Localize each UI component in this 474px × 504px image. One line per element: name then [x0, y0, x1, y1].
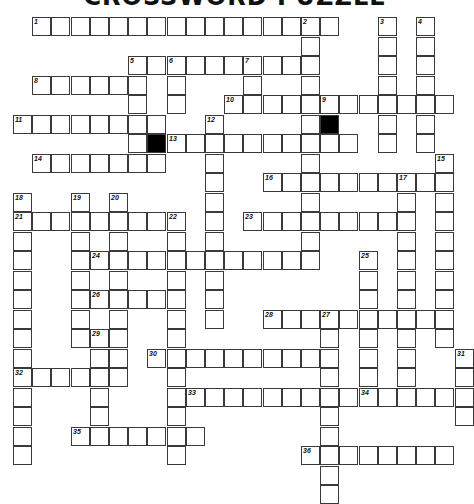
grid-cell[interactable]	[301, 56, 320, 75]
grid-cell[interactable]	[90, 407, 109, 426]
grid-cell[interactable]	[167, 349, 186, 368]
grid-cell[interactable]	[378, 446, 397, 465]
grid-cell[interactable]	[435, 95, 454, 114]
grid-cell[interactable]	[359, 290, 378, 309]
grid-cell[interactable]: 21	[13, 212, 32, 231]
grid-cell[interactable]	[320, 485, 339, 504]
grid-cell[interactable]	[243, 134, 262, 153]
grid-cell[interactable]	[301, 310, 320, 329]
grid-cell[interactable]	[339, 95, 358, 114]
grid-cell[interactable]	[90, 154, 109, 173]
grid-cell[interactable]	[128, 95, 147, 114]
grid-cell[interactable]	[167, 271, 186, 290]
grid-cell[interactable]: 18	[13, 193, 32, 212]
grid-cell[interactable]	[416, 310, 435, 329]
grid-cell[interactable]	[90, 388, 109, 407]
grid-cell[interactable]	[435, 388, 454, 407]
grid-cell[interactable]	[205, 56, 224, 75]
grid-cell[interactable]	[147, 290, 166, 309]
grid-cell[interactable]: 25	[359, 251, 378, 270]
grid-cell[interactable]	[416, 37, 435, 56]
grid-cell[interactable]	[263, 134, 282, 153]
grid-cell[interactable]: 22	[167, 212, 186, 231]
grid-cell[interactable]	[339, 310, 358, 329]
grid-cell[interactable]	[109, 310, 128, 329]
grid-cell[interactable]: 6	[167, 56, 186, 75]
grid-cell[interactable]	[13, 427, 32, 446]
grid-cell[interactable]	[205, 193, 224, 212]
grid-cell[interactable]	[243, 76, 262, 95]
grid-cell[interactable]	[378, 76, 397, 95]
grid-cell[interactable]	[455, 368, 474, 387]
grid-cell[interactable]: 34	[359, 388, 378, 407]
grid-cell[interactable]	[128, 290, 147, 309]
grid-cell[interactable]	[205, 17, 224, 36]
grid-cell[interactable]: 19	[71, 193, 90, 212]
grid-cell[interactable]	[205, 388, 224, 407]
grid-cell[interactable]	[167, 407, 186, 426]
grid-cell[interactable]	[128, 154, 147, 173]
grid-cell[interactable]	[435, 212, 454, 231]
grid-cell[interactable]	[282, 134, 301, 153]
grid-cell[interactable]	[320, 368, 339, 387]
grid-cell[interactable]	[167, 368, 186, 387]
grid-cell[interactable]	[282, 251, 301, 270]
grid-cell[interactable]: 28	[263, 310, 282, 329]
grid-cell[interactable]	[90, 212, 109, 231]
grid-cell[interactable]	[71, 271, 90, 290]
grid-cell[interactable]	[301, 193, 320, 212]
grid-cell[interactable]	[109, 17, 128, 36]
grid-cell[interactable]	[397, 232, 416, 251]
grid-cell[interactable]	[301, 115, 320, 134]
grid-cell[interactable]: 3	[378, 17, 397, 36]
grid-cell[interactable]	[243, 251, 262, 270]
grid-cell[interactable]	[51, 368, 70, 387]
grid-cell[interactable]	[32, 115, 51, 134]
grid-cell[interactable]	[243, 17, 262, 36]
grid-cell[interactable]	[301, 95, 320, 114]
grid-cell[interactable]	[147, 17, 166, 36]
grid-cell[interactable]	[224, 349, 243, 368]
grid-cell[interactable]	[71, 329, 90, 348]
grid-cell[interactable]	[320, 388, 339, 407]
grid-cell[interactable]	[397, 329, 416, 348]
grid-cell[interactable]	[186, 134, 205, 153]
grid-cell[interactable]: 5	[128, 56, 147, 75]
grid-cell[interactable]	[416, 173, 435, 192]
grid-cell[interactable]	[378, 95, 397, 114]
grid-cell[interactable]	[109, 368, 128, 387]
grid-cell[interactable]: 2	[301, 17, 320, 36]
grid-cell[interactable]	[378, 37, 397, 56]
grid-cell[interactable]	[416, 134, 435, 153]
grid-cell[interactable]: 20	[109, 193, 128, 212]
grid-cell[interactable]	[435, 310, 454, 329]
grid-cell[interactable]	[205, 251, 224, 270]
grid-cell[interactable]	[416, 76, 435, 95]
grid-cell[interactable]	[128, 17, 147, 36]
grid-cell[interactable]	[128, 427, 147, 446]
grid-cell[interactable]: 24	[90, 251, 109, 270]
grid-cell[interactable]	[378, 310, 397, 329]
grid-cell[interactable]	[301, 173, 320, 192]
grid-cell[interactable]: 8	[32, 76, 51, 95]
grid-cell[interactable]: 27	[320, 310, 339, 329]
grid-cell[interactable]	[378, 134, 397, 153]
grid-cell[interactable]	[378, 173, 397, 192]
grid-cell[interactable]	[301, 251, 320, 270]
grid-cell[interactable]	[301, 154, 320, 173]
grid-cell[interactable]	[301, 134, 320, 153]
grid-cell[interactable]	[167, 76, 186, 95]
grid-cell[interactable]: 7	[243, 56, 262, 75]
grid-cell[interactable]	[455, 388, 474, 407]
grid-cell[interactable]	[320, 134, 339, 153]
grid-cell[interactable]: 4	[416, 17, 435, 36]
grid-cell[interactable]: 33	[186, 388, 205, 407]
grid-cell[interactable]	[455, 407, 474, 426]
grid-cell[interactable]	[51, 115, 70, 134]
grid-cell[interactable]	[224, 17, 243, 36]
grid-cell[interactable]	[71, 368, 90, 387]
grid-cell[interactable]	[51, 17, 70, 36]
grid-cell[interactable]	[51, 154, 70, 173]
grid-cell[interactable]	[435, 290, 454, 309]
grid-cell[interactable]	[32, 368, 51, 387]
